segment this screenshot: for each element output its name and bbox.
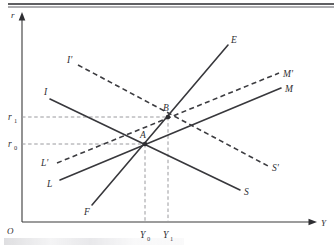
guide-lines-group xyxy=(22,117,168,222)
point-B xyxy=(166,115,171,120)
curve-FE xyxy=(92,45,228,205)
economics-diagram: r Y O r 1 r 0 Y 0 Y 1 I I' S S' L L' M M… xyxy=(0,0,334,247)
tick-r0-sub: 0 xyxy=(14,144,17,151)
origin-label: O xyxy=(7,226,14,236)
x-axis-arrowhead xyxy=(309,219,318,226)
curve-label-S-prime: S' xyxy=(272,163,280,173)
curve-label-L-prime: L' xyxy=(40,158,49,168)
curve-label-F: F xyxy=(83,207,90,217)
figure-container: r Y O r 1 r 0 Y 0 Y 1 I I' S S' L L' M M… xyxy=(0,0,334,247)
curve-label-M-prime: M' xyxy=(282,69,294,79)
curve-label-E: E xyxy=(230,35,237,45)
point-A xyxy=(143,142,148,147)
curve-label-I: I xyxy=(43,87,48,97)
curve-LM xyxy=(60,88,281,180)
y-axis-label: r xyxy=(11,10,15,20)
tick-r0: r 0 xyxy=(8,139,17,151)
y-axis-arrowhead xyxy=(19,12,26,21)
curve-label-L: L xyxy=(46,179,52,189)
tick-r0-base: r xyxy=(8,139,12,149)
curve-label-I-prime: I' xyxy=(66,55,73,65)
curve-IS-prime xyxy=(78,65,268,166)
curve-label-M: M xyxy=(284,84,294,94)
tick-r1-base: r xyxy=(8,112,12,122)
curve-label-S: S xyxy=(244,187,249,197)
x-axis-label: Y xyxy=(321,218,327,228)
page-scan-artifact xyxy=(4,238,184,245)
point-label-A: A xyxy=(139,130,146,140)
point-label-B: B xyxy=(163,103,169,113)
curves-group xyxy=(50,45,281,205)
tick-r1-sub: 1 xyxy=(14,117,17,124)
tick-r1: r 1 xyxy=(8,112,17,124)
